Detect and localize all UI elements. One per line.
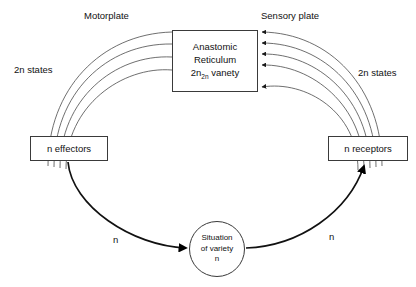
- reticulum-line-1: Anastomic: [193, 40, 237, 53]
- situation-of-variety-circle[interactable]: Situation of variety n: [189, 221, 245, 277]
- diagram-canvas: Anastomic Reticulum 2n2n vanety n effect…: [0, 0, 416, 287]
- left-2n-states-label: 2n states: [14, 64, 53, 76]
- n-receptors-box[interactable]: n receptors: [328, 136, 408, 161]
- effectors-label: n effectors: [47, 142, 91, 155]
- right-2n-states-label: 2n states: [358, 67, 397, 79]
- variety-line-3: n: [215, 254, 219, 265]
- variety-to-receptors-edge: [246, 166, 364, 248]
- variety-line-2: of variety: [201, 244, 233, 255]
- reticulum-variety-subscript: 2n: [201, 72, 208, 79]
- reticulum-line-3: 2n2n vanety: [191, 66, 239, 83]
- sensory-plate-label: Sensory plate: [261, 10, 319, 22]
- motorplate-label: Motorplate: [84, 10, 129, 22]
- variety-line-1: Situation: [201, 233, 232, 244]
- left-n-edge-label: n: [113, 234, 118, 246]
- reticulum-variety-suffix: vanety: [209, 67, 240, 78]
- anastomic-reticulum-box[interactable]: Anastomic Reticulum 2n2n vanety: [172, 30, 258, 92]
- n-effectors-box[interactable]: n effectors: [30, 136, 108, 161]
- receptors-label: n receptors: [344, 142, 392, 155]
- effectors-to-variety-edge: [68, 162, 186, 248]
- reticulum-variety-prefix: 2n: [191, 67, 202, 78]
- right-n-edge-label: n: [329, 231, 334, 243]
- reticulum-line-2: Reticulum: [194, 53, 236, 66]
